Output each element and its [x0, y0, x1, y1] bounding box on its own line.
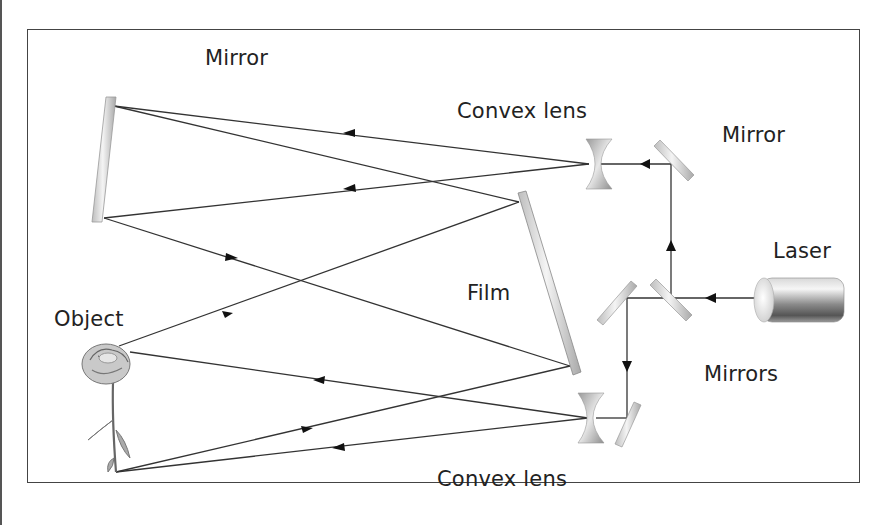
ray-lens-to-mirror-bottom: [104, 164, 589, 218]
arrow-icon: [222, 311, 233, 318]
ray-lens-to-object-top: [130, 352, 588, 418]
arrow-icon: [313, 376, 325, 384]
ray-lens-to-object-bottom: [116, 418, 588, 472]
label-mirrors: Mirrors: [704, 362, 778, 386]
film-plate: [518, 191, 581, 375]
arrow-icon: [705, 293, 716, 303]
label-convex-lens-top: Convex lens: [457, 99, 587, 123]
label-mirror-right: Mirror: [722, 123, 785, 147]
label-film: Film: [467, 281, 510, 305]
lower-right-mirror: [615, 402, 641, 447]
arrow-icon: [622, 361, 632, 372]
ray-object-to-film-bottom: [116, 366, 570, 472]
arrow-icon: [343, 129, 355, 137]
arrow-icon: [640, 159, 650, 169]
arrow-icon: [666, 240, 676, 251]
label-object: Object: [54, 307, 124, 331]
upper-right-mirror: [654, 140, 694, 181]
laser-device: [754, 278, 844, 322]
rose-object: [82, 344, 130, 472]
holography-diagram: [0, 0, 880, 525]
label-convex-lens-bottom: Convex lens: [437, 467, 567, 491]
large-mirror: [92, 97, 116, 222]
label-mirror-top: Mirror: [205, 46, 268, 70]
label-laser: Laser: [773, 239, 831, 263]
lower-left-mirror: [597, 281, 637, 325]
ray-object-to-film-top: [119, 202, 519, 346]
